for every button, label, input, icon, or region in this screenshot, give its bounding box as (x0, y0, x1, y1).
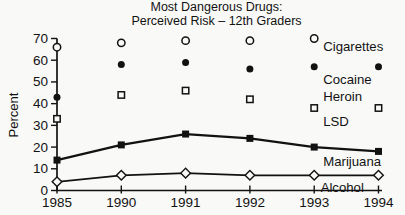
chart-svg: 010203040506070198519901991199219931994C… (0, 0, 405, 215)
y-tick-label: 70 (33, 31, 48, 46)
series-point-cocaine (54, 94, 61, 101)
series-point-heroin-lsd (118, 92, 124, 98)
series-point-cocaine (246, 65, 253, 72)
x-tick-label: 1985 (42, 195, 72, 210)
series-label-cigarettes: Cigarettes (323, 39, 384, 54)
series-point-heroin-lsd (247, 96, 253, 102)
series-point-heroin-lsd (311, 105, 317, 111)
series-point-alcohol (117, 171, 127, 181)
series-point-alcohol (374, 171, 384, 181)
series-point-heroin-lsd (375, 105, 381, 111)
series-point-cigarettes (246, 37, 253, 44)
series-label-heroin: Heroin (323, 89, 362, 104)
series-point-cigarettes (53, 43, 60, 50)
series-point-cocaine (118, 61, 125, 68)
series-point-cigarettes (118, 39, 125, 46)
series-point-heroin-lsd (182, 87, 188, 93)
y-tick-label: 50 (33, 74, 48, 89)
series-label-alcohol: Alcohol (321, 180, 364, 195)
series-point-cocaine (375, 63, 382, 70)
y-tick-label: 60 (33, 53, 48, 68)
y-tick-label: 20 (33, 140, 48, 155)
series-point-marijuana (246, 135, 253, 142)
series-label-marijuana: Marijuana (323, 154, 382, 169)
series-point-marijuana (118, 141, 125, 148)
y-tick-label: 10 (33, 161, 48, 176)
series-label-cocaine: Cocaine (323, 72, 371, 87)
x-tick-label: 1990 (106, 195, 136, 210)
y-tick-label: 30 (33, 118, 48, 133)
series-point-alcohol (52, 177, 62, 187)
series-point-heroin-lsd (54, 116, 60, 122)
y-tick-label: 40 (33, 96, 48, 111)
series-point-marijuana (182, 131, 189, 138)
series-point-alcohol (309, 171, 319, 181)
risk-chart-figure: Most Dangerous Drugs: Perceived Risk – 1… (0, 0, 405, 215)
series-point-cigarettes (311, 35, 318, 42)
x-tick-label: 1994 (363, 195, 394, 210)
series-point-cigarettes (182, 37, 189, 44)
x-tick-label: 1991 (171, 195, 201, 210)
series-point-marijuana (311, 144, 318, 151)
series-label-lsd: LSD (323, 114, 349, 129)
series-point-alcohol (245, 171, 255, 181)
series-point-cocaine (311, 63, 318, 70)
x-tick-label: 1992 (235, 195, 265, 210)
series-point-marijuana (54, 157, 61, 164)
series-point-cocaine (182, 59, 189, 66)
x-tick-label: 1993 (299, 195, 329, 210)
series-point-alcohol (181, 168, 191, 178)
